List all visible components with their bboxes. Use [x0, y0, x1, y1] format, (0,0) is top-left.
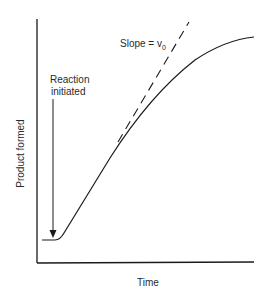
slope-label-text: Slope = v: [120, 38, 162, 49]
y-axis-label: Product formed: [15, 114, 26, 194]
arrowhead-icon: [50, 230, 57, 238]
annotation-reaction-line2: initiated: [51, 86, 85, 98]
x-axis-label: Time: [137, 277, 159, 289]
annotation-slope: Slope = v0: [120, 38, 166, 54]
product-curve: [42, 37, 254, 240]
annotation-reaction-line1: Reaction: [50, 74, 89, 86]
x-axis: [37, 262, 254, 263]
slope-label-subscript: 0: [162, 44, 166, 51]
